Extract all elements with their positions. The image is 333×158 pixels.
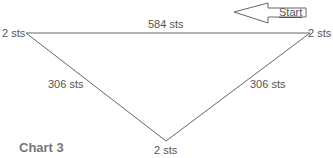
vertex-top-right-label: 2 sts xyxy=(308,28,331,39)
chart-title: Chart 3 xyxy=(19,141,64,154)
edge-right-label: 306 sts xyxy=(250,79,285,90)
edge-top-label: 584 sts xyxy=(148,19,183,30)
edge-left-label: 306 sts xyxy=(48,79,83,90)
vertex-bottom-label: 2 sts xyxy=(154,145,177,156)
vertex-top-left-label: 2 sts xyxy=(2,28,25,39)
start-label: Start xyxy=(279,7,302,18)
edge-right xyxy=(166,33,310,141)
edge-left xyxy=(26,33,166,141)
